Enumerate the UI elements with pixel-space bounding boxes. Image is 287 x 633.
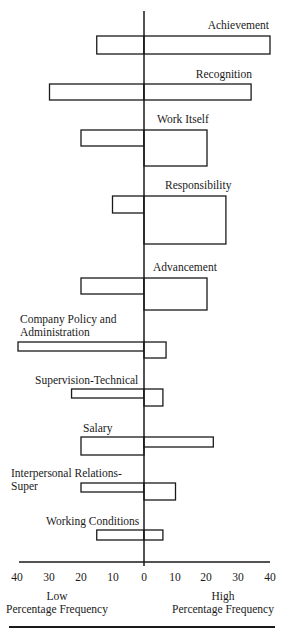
low-frequency-bar [81, 278, 144, 294]
bar-group: Advancement [81, 261, 218, 310]
x-tick-label: 30 [232, 571, 244, 583]
right-axis-title-high: High [212, 590, 235, 603]
high-frequency-bar [144, 437, 213, 447]
high-frequency-bar [144, 278, 207, 310]
low-frequency-bar [97, 530, 144, 540]
category-label: Responsibility [165, 179, 232, 192]
bar-group: Responsibility [113, 179, 232, 244]
category-label: Work Itself [157, 113, 209, 125]
high-frequency-bar [144, 84, 251, 100]
high-frequency-bar [144, 530, 163, 540]
x-axis-ticks: 40302010010203040 [11, 571, 276, 583]
low-frequency-bar [50, 84, 145, 100]
bar-group: Salary [81, 422, 213, 455]
high-frequency-bar [144, 36, 270, 54]
category-label: Working Conditions [46, 515, 140, 528]
x-tick-label: 40 [264, 571, 276, 583]
bar-group: Work Itself [81, 113, 209, 166]
x-tick-label: 40 [11, 571, 23, 583]
high-frequency-bar [144, 483, 176, 500]
left-axis-title-percentage: Percentage Frequency [6, 603, 108, 616]
x-tick-label: 30 [43, 571, 55, 583]
low-frequency-bar [81, 483, 144, 492]
category-label: Recognition [196, 68, 252, 81]
x-tick-label: 20 [75, 571, 87, 583]
low-frequency-bar [81, 437, 144, 455]
low-frequency-bar [81, 130, 144, 146]
left-axis-title-low: Low [46, 590, 68, 602]
category-label: Company Policy andAdministration [20, 313, 117, 338]
x-tick-label: 20 [200, 571, 212, 583]
bar-group: Working Conditions [46, 515, 163, 540]
x-tick-label: 10 [169, 571, 181, 583]
low-frequency-bar [18, 342, 144, 351]
x-tick-label: 10 [107, 571, 119, 583]
bars-layer: AchievementRecognitionWork ItselfRespons… [11, 19, 270, 540]
category-label: Supervision-Technical [35, 374, 138, 387]
high-frequency-bar [144, 389, 163, 406]
high-frequency-bar [144, 130, 207, 166]
bar-group: Recognition [50, 68, 253, 100]
high-frequency-bar [144, 196, 226, 244]
bar-group: Interpersonal Relations-Super [11, 467, 176, 500]
category-label: Advancement [153, 261, 218, 273]
x-tick-label: 0 [141, 571, 147, 583]
low-frequency-bar [113, 196, 145, 213]
high-frequency-bar [144, 342, 166, 358]
bar-group: Achievement [97, 19, 270, 54]
low-frequency-bar [97, 36, 144, 54]
low-frequency-bar [72, 389, 144, 398]
category-label: Salary [83, 422, 113, 435]
motivation-hygiene-chart: AchievementRecognitionWork ItselfRespons… [0, 0, 287, 633]
category-label: Achievement [208, 19, 270, 31]
right-axis-title-percentage: Percentage Frequency [172, 603, 274, 616]
